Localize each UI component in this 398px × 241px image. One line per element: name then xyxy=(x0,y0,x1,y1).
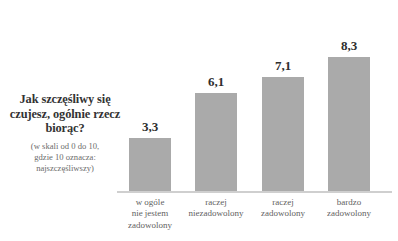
bar-group: 6,1 raczej niezadowolony xyxy=(183,0,249,241)
bar[interactable] xyxy=(195,93,237,191)
bar-chart-figure: Jak szczęśliwy się czujesz, ogólnie rzec… xyxy=(0,0,398,241)
chart-title: Jak szczęśliwy się czujesz, ogólnie rzec… xyxy=(4,92,126,136)
bar-group: 7,1 raczej zadowolony xyxy=(250,0,316,241)
chart-subtitle-line: gdzie 10 oznacza: xyxy=(4,152,126,163)
bar-value-label: 7,1 xyxy=(250,58,316,74)
chart-question-block: Jak szczęśliwy się czujesz, ogólnie rzec… xyxy=(4,92,126,174)
plot-area: 3,3 w ogóle nie jestem zadowolony 6,1 ra… xyxy=(117,0,395,241)
bar-group: 8,3 bardzo zadowolony xyxy=(316,0,382,241)
bar-value-label: 3,3 xyxy=(117,119,183,135)
bar[interactable] xyxy=(262,77,304,191)
bar-value-label: 8,3 xyxy=(316,38,382,54)
chart-subtitle-line: najszczęśliwszy) xyxy=(4,163,126,174)
bar[interactable] xyxy=(129,138,171,191)
chart-subtitle-line: (w skali od 0 do 10, xyxy=(4,141,126,152)
bar-category-line: bardzo xyxy=(310,197,388,208)
chart-subtitle: (w skali od 0 do 10, gdzie 10 oznacza: n… xyxy=(4,141,126,175)
chart-title-line: biorąc? xyxy=(45,121,84,135)
chart-title-line: ogólnie rzecz xyxy=(53,107,120,121)
bar-value-label: 6,1 xyxy=(183,74,249,90)
bar-group: 3,3 w ogóle nie jestem zadowolony xyxy=(117,0,183,241)
bar-category-line: zadowolony xyxy=(111,220,189,231)
chart-title-line: Jak szczęśliwy xyxy=(19,92,94,106)
bar[interactable] xyxy=(328,57,370,191)
bar-category-line: zadowolony xyxy=(310,208,388,219)
bar-category-label: bardzo zadowolony xyxy=(310,197,388,220)
